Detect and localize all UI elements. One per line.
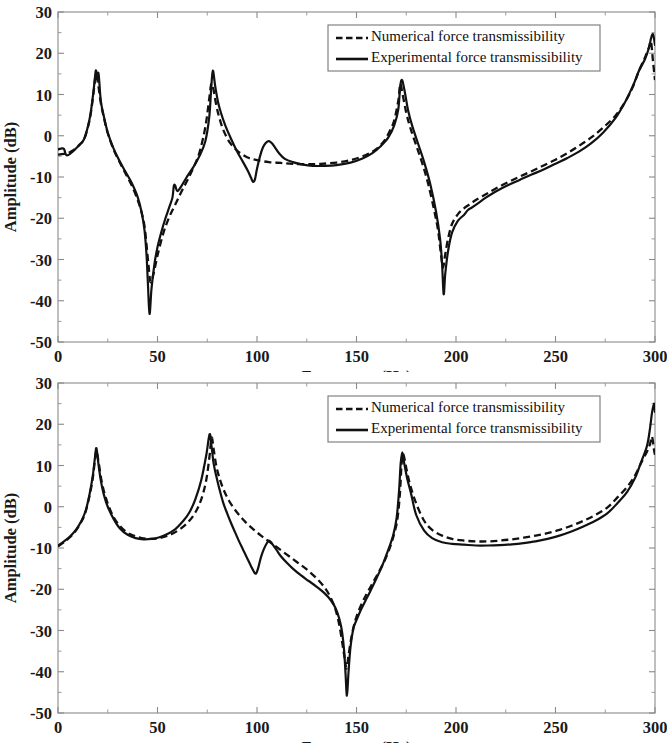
y-tick-label-30: 30 (36, 374, 53, 393)
y-tick-label--40: -40 (30, 663, 52, 682)
y-tick-label--30: -30 (30, 622, 52, 641)
x-tick-label-200: 200 (444, 718, 469, 737)
y-tick-label-20: 20 (36, 415, 53, 434)
y-tick-label--30: -30 (30, 251, 52, 270)
y-tick-label-10: 10 (36, 457, 53, 476)
x-tick-label-50: 50 (149, 718, 166, 737)
y-tick-label-0: 0 (44, 498, 52, 517)
x-tick-label-150: 150 (344, 347, 369, 366)
y-tick-label--50: -50 (30, 704, 52, 723)
x-tick-label-100: 100 (245, 347, 270, 366)
y-tick-label--40: -40 (30, 292, 52, 311)
x-tick-label-250: 250 (543, 718, 568, 737)
legend: Numerical force transmissibilityExperime… (328, 25, 600, 71)
y-tick-label--20: -20 (30, 580, 52, 599)
chart-panel-bottom: 050100150200250300-50-40-30-20-100102030… (0, 371, 667, 743)
x-tick-label-0: 0 (54, 718, 62, 737)
x-tick-label-300: 300 (643, 347, 667, 366)
y-tick-label-10: 10 (36, 86, 53, 105)
x-axis-title: Frequency (Hz) (301, 738, 411, 743)
x-tick-label-150: 150 (344, 718, 369, 737)
legend: Numerical force transmissibilityExperime… (328, 396, 600, 442)
x-tick-label-300: 300 (643, 718, 667, 737)
legend-label-numerical: Numerical force transmissibility (371, 399, 566, 415)
series-curve-experimental (58, 404, 655, 696)
y-tick-label--10: -10 (30, 168, 52, 187)
x-tick-label-50: 50 (149, 347, 166, 366)
curves-group (58, 404, 655, 696)
legend-label-experimental: Experimental force transmissibility (371, 420, 583, 436)
y-tick-label--50: -50 (30, 333, 52, 352)
curves-group (58, 34, 655, 314)
y-tick-label-30: 30 (36, 3, 53, 22)
chart-panel-top: 050100150200250300-50-40-30-20-100102030… (0, 0, 667, 372)
y-tick-label--10: -10 (30, 539, 52, 558)
plot-area-bottom: 050100150200250300-50-40-30-20-100102030… (1, 374, 667, 743)
chart-svg-top: 050100150200250300-50-40-30-20-100102030… (0, 0, 667, 372)
chart-svg-bottom: 050100150200250300-50-40-30-20-100102030… (0, 371, 667, 743)
x-tick-label-0: 0 (54, 347, 62, 366)
series-curve-numerical (58, 437, 655, 669)
force-transmissibility-figure: 050100150200250300-50-40-30-20-100102030… (0, 0, 667, 743)
y-tick-label--20: -20 (30, 209, 52, 228)
y-axis-title: Amplitude (dB) (1, 493, 20, 603)
x-tick-label-250: 250 (543, 347, 568, 366)
legend-label-experimental: Experimental force transmissibility (371, 49, 583, 65)
y-tick-label-0: 0 (44, 127, 52, 146)
y-tick-label-20: 20 (36, 44, 53, 63)
y-axis-title: Amplitude (dB) (1, 122, 20, 232)
legend-label-numerical: Numerical force transmissibility (371, 28, 566, 44)
series-curve-experimental (58, 34, 655, 314)
plot-area-top: 050100150200250300-50-40-30-20-100102030… (1, 3, 667, 372)
x-tick-label-100: 100 (245, 718, 270, 737)
x-tick-label-200: 200 (444, 347, 469, 366)
